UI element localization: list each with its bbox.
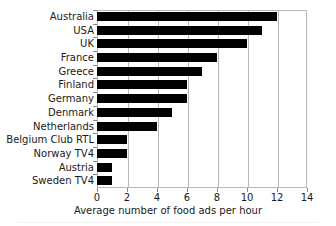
x-axis-tick-label: 4 [154, 191, 160, 204]
category-label: USA [0, 24, 94, 38]
bar-row [97, 10, 307, 24]
category-label: Sweden TV4 [0, 174, 94, 188]
x-axis-tick-label: 12 [271, 191, 284, 204]
bar [97, 122, 157, 131]
bar [97, 12, 277, 21]
category-label: Norway TV4 [0, 147, 94, 161]
category-label: France [0, 51, 94, 65]
category-label: Belgium Club RTL [0, 133, 94, 147]
bar-row [97, 78, 307, 92]
x-axis-tick-label: 14 [301, 191, 314, 204]
bar-row [97, 51, 307, 65]
category-axis-labels: AustraliaUSAUKFranceGreeceFinlandGermany… [0, 10, 94, 188]
bar [97, 176, 112, 185]
bar [97, 53, 217, 62]
bar-row [97, 92, 307, 106]
bar [97, 67, 202, 76]
bar [97, 80, 187, 89]
category-label: Netherlands [0, 120, 94, 134]
bar-row [97, 174, 307, 188]
bar-row [97, 147, 307, 161]
x-axis-tick-label: 6 [184, 191, 190, 204]
bar-row [97, 120, 307, 134]
bar-chart: AustraliaUSAUKFranceGreeceFinlandGermany… [0, 0, 336, 226]
category-label: Finland [0, 78, 94, 92]
x-axis-tick-label: 2 [124, 191, 130, 204]
bar [97, 135, 127, 144]
category-label: UK [0, 37, 94, 51]
bar [97, 39, 247, 48]
bars-layer [97, 10, 307, 188]
bar-row [97, 37, 307, 51]
category-label: Denmark [0, 106, 94, 120]
bar [97, 149, 127, 158]
bar-row [97, 133, 307, 147]
category-label: Austria [0, 161, 94, 175]
x-axis-tick-label: 0 [94, 191, 100, 204]
bar-row [97, 106, 307, 120]
bar [97, 26, 262, 35]
x-axis-title: Average number of food ads per hour [0, 205, 336, 216]
category-label: Germany [0, 92, 94, 106]
x-axis-tick-label: 8 [214, 191, 220, 204]
x-axis-tick-label: 10 [241, 191, 254, 204]
x-axis-tick-labels: 02468101214 [97, 191, 307, 204]
bar [97, 108, 172, 117]
category-label: Australia [0, 10, 94, 24]
bar [97, 94, 187, 103]
bar-row [97, 161, 307, 175]
bar [97, 163, 112, 172]
category-label: Greece [0, 65, 94, 79]
bar-row [97, 65, 307, 79]
bar-row [97, 24, 307, 38]
page-edge-artifact [18, 222, 318, 223]
